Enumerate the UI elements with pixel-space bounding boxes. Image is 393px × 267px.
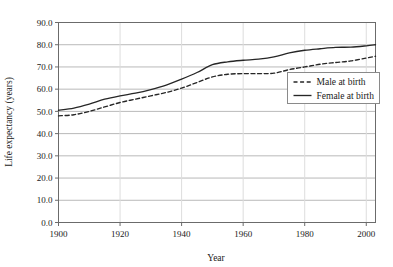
- x-tick-label-1940: 1940: [173, 229, 192, 239]
- y-tick-label-90: 90.0: [37, 18, 53, 28]
- y-tick-label-50: 50.0: [37, 107, 53, 117]
- line-chart: 0.010.020.030.040.050.060.070.080.090.0 …: [0, 0, 393, 267]
- life-expectancy-chart-figure: 0.010.020.030.040.050.060.070.080.090.0 …: [0, 0, 393, 267]
- y-tick-label-80: 80.0: [37, 40, 53, 50]
- y-tick-label-40: 40.0: [37, 129, 53, 139]
- x-tick-label-1980: 1980: [296, 229, 315, 239]
- x-tick-label-1900: 1900: [50, 229, 69, 239]
- y-tick-label-20: 20.0: [37, 173, 53, 183]
- chart-legend: Male at birthFemale at birth: [288, 73, 380, 104]
- y-tick-label-30: 30.0: [37, 151, 53, 161]
- x-tick-label-1920: 1920: [111, 229, 130, 239]
- legend-label-male-at-birth: Male at birth: [317, 77, 366, 87]
- x-tick-label-2000: 2000: [357, 229, 376, 239]
- y-tick-label-60: 60.0: [37, 84, 53, 94]
- y-tick-label-0: 0.0: [41, 218, 53, 228]
- y-tick-label-70: 70.0: [37, 62, 53, 72]
- x-tick-label-1960: 1960: [234, 229, 253, 239]
- y-tick-label-10: 10.0: [37, 195, 53, 205]
- x-axis-title: Year: [207, 253, 225, 263]
- y-axis-title: Life expectancy (years): [4, 77, 15, 167]
- legend-label-female-at-birth: Female at birth: [317, 91, 375, 101]
